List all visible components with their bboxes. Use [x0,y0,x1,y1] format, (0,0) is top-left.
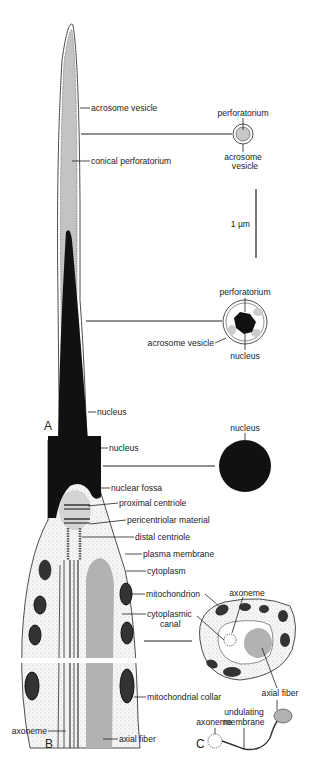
panel-label-c: C [196,737,205,751]
label-axoneme-b: axoneme [12,726,48,736]
label-nuclear-fossa: nuclear fossa [111,483,162,493]
label-mitochondrion: mitochondrion [146,589,200,599]
label-axial-fiber-cross: axial fiber [262,688,299,698]
panel-label-b: B [45,737,53,751]
sperm-ultrastructure-diagram: acrosome vesicle conical perforatorium n… [0,0,317,774]
label-cytoplasm: cytoplasm [147,566,186,576]
label-acrosome-vesicle: acrosome vesicle [91,103,158,113]
label-nucleus-2: nucleus [230,351,260,361]
label-cytoplasmic-canal-1: cytoplasmic [147,609,193,619]
label-axial-fiber-b: axial fiber [119,734,156,744]
cross-section-acrosome [233,118,253,152]
cross-section-head [215,298,267,350]
label-plasma-membrane: plasma membrane [143,549,214,559]
label-nucleus-a: nucleus [97,407,127,417]
label-mitochondrial-collar: mitochondrial collar [147,692,221,702]
label-pericentriolar-material: pericentriolar material [127,515,210,525]
label-axoneme-cross: axoneme [229,588,265,598]
label-distal-centriole: distal centriole [135,532,190,542]
label-proximal-centriole: proximal centriole [119,498,187,508]
label-undulating-2: membrane [223,717,264,727]
cross-section-midpiece [197,594,296,688]
panel-a-head [58,24,89,505]
label-cytoplasmic-canal-2: canal [160,619,181,629]
panel-label-a: A [44,419,52,433]
label-nucleus-cross: nucleus [230,423,260,433]
label-acrosome-vesicle-2: acrosome vesicle [148,338,215,348]
label-nucleus-b: nucleus [109,443,139,453]
cross-section-nucleus [219,433,271,492]
scale-bar-label: 1 µm [231,219,250,229]
label-conical-perforatorium: conical perforatorium [91,156,171,166]
label-undulating-1: undulating [224,707,264,717]
label-acrosome-1b: vesicle [232,161,258,171]
label-perforatorium-2: perforatorium [219,287,270,297]
label-perforatorium-1: perforatorium [217,108,268,118]
